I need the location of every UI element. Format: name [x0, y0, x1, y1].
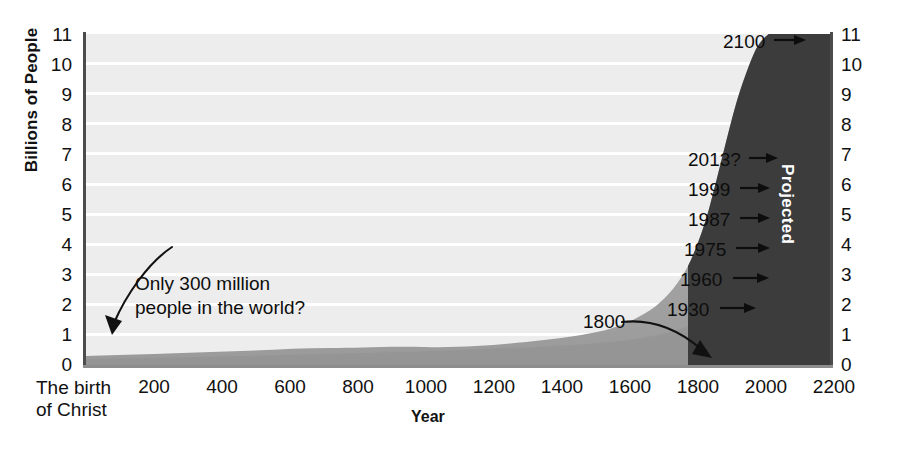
y-tick-left-7: 7: [61, 145, 72, 164]
y-tick-left-2: 2: [61, 295, 72, 314]
y-tick-left-1: 1: [61, 325, 72, 344]
y-tick-left-6: 6: [61, 175, 72, 194]
annotation-1975: 1975: [684, 240, 772, 259]
annotation-1800: 1800: [583, 312, 625, 331]
y-tick-left-8: 8: [61, 115, 72, 134]
x-tick-600: 600: [274, 377, 306, 396]
callout-line-2: people in the world?: [135, 296, 305, 320]
x-tick-2200: 2200: [813, 377, 855, 396]
y-tick-right-2: 2: [841, 295, 852, 314]
annotation-2100: 2100: [723, 32, 808, 51]
arrow-right-icon: [740, 212, 772, 224]
y-tick-right-10: 10: [841, 55, 862, 74]
y-tick-right-11: 11: [841, 25, 861, 44]
annotation-1975-label: 1975: [684, 239, 726, 260]
annotation-1999-label: 1999: [688, 179, 730, 200]
arrow-right-icon: [740, 182, 772, 194]
y-tick-left-10: 10: [51, 55, 72, 74]
y-tick-right-4: 4: [841, 235, 852, 254]
x-axis-title: Year: [411, 408, 445, 426]
x-tick-1800: 1800: [677, 377, 719, 396]
arrow-right-icon: [749, 152, 779, 164]
population-growth-chart: Projected Billions of People Billions of…: [0, 0, 915, 457]
y-tick-right-9: 9: [841, 85, 852, 104]
y-tick-right-6: 6: [841, 175, 852, 194]
annotation-1960-label: 1960: [680, 269, 722, 290]
x-tick-1200: 1200: [473, 377, 515, 396]
x-tick-2000: 2000: [745, 377, 787, 396]
annotation-1930-label: 1930: [667, 299, 709, 320]
y-tick-right-1: 1: [841, 325, 852, 344]
x-tick-400: 400: [206, 377, 238, 396]
x-tick-1600: 1600: [609, 377, 651, 396]
y-tick-left-9: 9: [61, 85, 72, 104]
annotation-2013-label: 2013?: [688, 149, 741, 170]
x-tick-1400: 1400: [541, 377, 583, 396]
y-axis-line-left: [83, 32, 86, 368]
y-tick-right-7: 7: [841, 145, 852, 164]
x-tick-800: 800: [342, 377, 374, 396]
annotation-1930: 1930: [667, 300, 758, 319]
y-tick-right-3: 3: [841, 265, 852, 284]
arrow-right-icon: [774, 34, 808, 46]
x-tick-1000: 1000: [405, 377, 447, 396]
y-tick-left-0: 0: [61, 355, 72, 374]
y-axis-line-right: [830, 32, 833, 368]
annotation-1960: 1960: [680, 270, 771, 289]
y-tick-right-0: 0: [841, 355, 852, 374]
annotation-2013: 2013?: [688, 150, 779, 169]
arrow-right-icon: [736, 242, 772, 254]
y-tick-left-5: 5: [61, 205, 72, 224]
x-tick-origin: The birth of Christ: [36, 377, 111, 422]
annotation-1987-label: 1987: [688, 209, 730, 230]
callout-line-1: Only 300 million: [135, 272, 305, 296]
x-tick-200: 200: [138, 377, 170, 396]
x-axis-line: [83, 365, 833, 368]
y-tick-left-3: 3: [61, 265, 72, 284]
arrow-right-icon: [733, 272, 771, 284]
annotation-2100-label: 2100: [723, 31, 765, 52]
callout-300-million: Only 300 million people in the world?: [135, 272, 305, 320]
x-tick-origin-line1: The birth: [36, 377, 111, 399]
annotation-1999: 1999: [688, 180, 772, 199]
y-axis-title-left: Billions of People: [22, 0, 42, 210]
y-tick-right-8: 8: [841, 115, 852, 134]
annotation-1987: 1987: [688, 210, 772, 229]
x-tick-origin-line2: of Christ: [36, 399, 111, 421]
y-tick-left-11: 11: [52, 25, 72, 44]
annotation-1800-label: 1800: [583, 311, 625, 332]
arrow-right-icon: [720, 302, 758, 314]
projected-band-label: Projected: [777, 164, 797, 244]
y-tick-right-5: 5: [841, 205, 852, 224]
y-tick-left-4: 4: [61, 235, 72, 254]
